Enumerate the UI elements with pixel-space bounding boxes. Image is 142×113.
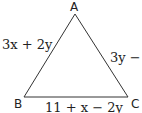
vertex-c-label: C	[131, 97, 139, 111]
vertex-a-label: A	[70, 0, 79, 14]
triangle-diagram: A B C 3x + 2y 3y − 1 11 + x − 2y	[0, 0, 142, 113]
side-ab-label: 3x + 2y	[2, 37, 53, 52]
side-bc-label: 11 + x − 2y	[45, 100, 123, 113]
vertex-b-label: B	[14, 97, 22, 111]
side-ac-label: 3y − 1	[110, 50, 142, 65]
